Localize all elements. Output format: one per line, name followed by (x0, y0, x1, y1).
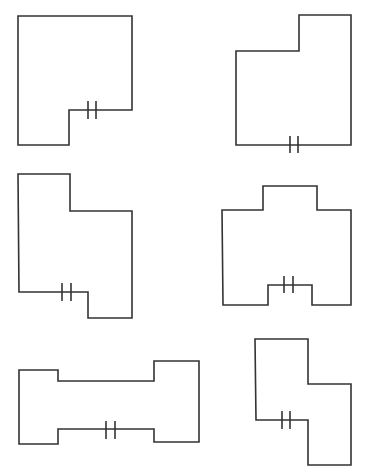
shape-outline (18, 174, 132, 318)
shape-2 (236, 15, 351, 153)
diagram-canvas (0, 0, 367, 472)
equal-length-tick-marks (106, 421, 115, 439)
shape-1 (18, 16, 132, 145)
shape-outline (19, 361, 199, 444)
shape-6 (255, 339, 351, 465)
shape-4 (222, 186, 351, 305)
shape-5 (19, 361, 199, 444)
shape-outline (222, 186, 351, 305)
shape-3 (18, 174, 132, 318)
shape-outline (18, 16, 132, 145)
shape-outline (236, 15, 351, 145)
shape-outline (255, 339, 351, 465)
